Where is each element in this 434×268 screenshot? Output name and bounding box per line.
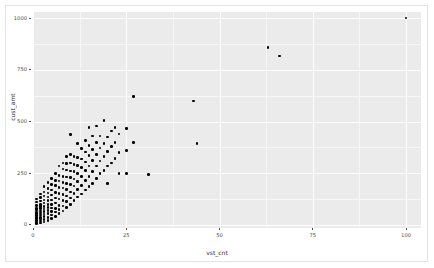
grid-major-vertical [220,12,221,228]
data-point [69,183,72,186]
data-point [58,204,61,207]
x-axis-tick-label: 50 [216,233,223,238]
data-point [76,188,79,191]
data-point [278,55,281,58]
data-point [106,182,109,185]
data-point [69,133,72,136]
data-point [43,221,46,224]
data-point [39,216,42,219]
data-point [69,153,72,156]
data-point [62,193,65,196]
data-point [62,162,65,165]
data-point [43,205,46,208]
grid-major-vertical [126,12,127,228]
data-point [62,205,65,208]
grid-major-horizontal [33,18,421,19]
grid-major-vertical [313,12,314,228]
data-point [58,180,61,183]
data-point [114,157,117,160]
x-axis-tick-label: 75 [309,233,316,238]
data-point [47,209,50,212]
grid-minor-horizontal [33,96,421,97]
data-point [76,142,79,145]
data-point [91,170,94,173]
y-axis-tick-label: 1000 [0,16,27,21]
data-point [50,194,53,197]
data-point [110,145,113,148]
data-point [43,218,46,221]
data-point [76,164,79,167]
data-point [76,172,79,175]
data-point [58,192,61,195]
data-point [73,185,76,188]
data-point [58,186,61,189]
data-point [73,155,76,158]
data-point [50,214,53,217]
grid-major-horizontal [33,173,421,174]
data-point [65,155,68,158]
data-point [73,178,76,181]
data-point [50,203,53,206]
data-point [84,161,87,164]
x-axis-tick-label: 100 [401,233,411,238]
data-point [267,46,270,49]
data-point [91,182,94,185]
data-point [50,199,53,202]
data-point [110,130,113,133]
x-axis-tick-label: 25 [123,233,130,238]
data-point [50,207,53,210]
data-point [47,187,50,190]
data-point [192,100,195,103]
y-axis-tick-label: 250 [0,171,27,176]
y-axis-tick-label: 750 [0,67,27,72]
data-point [80,166,83,169]
x-axis-tick [33,228,34,230]
data-point [35,198,38,201]
data-point [62,181,65,184]
data-point [125,172,128,175]
data-point [54,179,57,182]
data-point [54,202,57,205]
data-point [43,191,46,194]
data-point [103,142,106,145]
grid-minor-horizontal [33,199,421,200]
data-point [62,168,65,171]
data-point [69,191,72,194]
data-point [62,210,65,213]
data-point [65,162,68,165]
data-point [39,205,42,208]
data-point [65,188,68,191]
data-point [47,219,50,222]
data-point [147,173,150,176]
data-point [54,207,57,210]
x-axis-tick [126,228,127,230]
data-point [84,139,87,142]
data-point [58,212,61,215]
data-point [47,196,50,199]
data-point [69,170,72,173]
grid-minor-horizontal [33,44,421,45]
data-point [106,150,109,153]
data-point [54,215,57,218]
data-point [80,184,83,187]
data-point [95,153,98,156]
y-axis-tick-label: 0 [0,222,27,227]
data-point [196,142,199,145]
grid-major-horizontal [33,122,421,123]
data-point [88,154,91,157]
data-point [125,127,128,130]
data-point [118,133,121,136]
data-point [84,189,87,192]
data-point [103,155,106,158]
data-point [95,177,98,180]
data-point [80,158,83,161]
y-axis-tick [29,18,31,19]
data-point [39,196,42,199]
data-point [125,149,128,152]
x-axis-tick [219,228,220,230]
data-point [84,151,87,154]
data-point [50,177,53,180]
data-point [65,195,68,198]
data-point [43,210,46,213]
data-point [54,211,57,214]
